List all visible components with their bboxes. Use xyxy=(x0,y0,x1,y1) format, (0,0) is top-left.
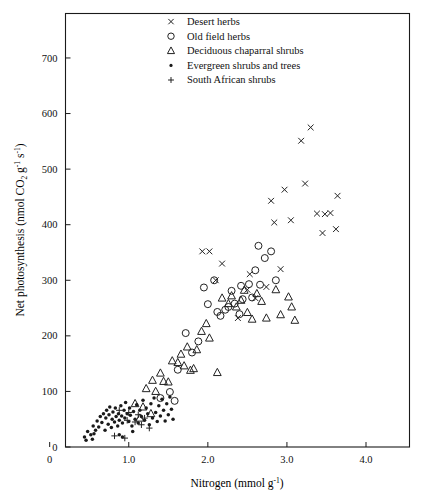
marker-dot xyxy=(104,416,108,420)
marker-cross xyxy=(268,198,274,204)
marker-circle xyxy=(268,248,275,255)
marker-triangle xyxy=(285,293,293,300)
marker-dot xyxy=(97,425,101,429)
marker-dot xyxy=(135,403,139,407)
legend-label: Evergreen shrubs and trees xyxy=(187,60,300,71)
marker-dot xyxy=(119,404,123,408)
marker-dot xyxy=(159,414,163,418)
marker-dot xyxy=(162,409,166,413)
y-tick-label: 200 xyxy=(42,330,58,341)
marker-dot xyxy=(113,420,117,424)
marker-cross xyxy=(335,193,341,199)
marker-circle xyxy=(211,277,218,284)
marker-dot xyxy=(165,402,169,406)
data-points-layer xyxy=(83,125,341,443)
y-tick-label: 600 xyxy=(42,108,58,119)
marker-dot xyxy=(108,405,112,409)
marker-dot xyxy=(123,416,127,420)
marker-triangle xyxy=(177,350,185,357)
marker-dot xyxy=(94,429,98,433)
marker-dot xyxy=(128,406,132,410)
series-old-field-herbs xyxy=(157,242,279,404)
marker-cross xyxy=(278,266,284,272)
marker-dot xyxy=(154,411,158,415)
marker-dot xyxy=(121,421,125,425)
marker-dot xyxy=(169,64,172,67)
marker-dot xyxy=(110,417,114,421)
marker-triangle xyxy=(218,294,226,301)
marker-dot xyxy=(103,429,107,433)
y-tick-label: 500 xyxy=(42,164,58,175)
marker-circle xyxy=(166,388,173,395)
marker-cross xyxy=(282,187,288,193)
marker-dot xyxy=(170,407,174,411)
marker-circle xyxy=(257,281,264,288)
marker-circle xyxy=(261,255,268,262)
marker-cross xyxy=(298,138,304,144)
marker-dot xyxy=(86,430,90,434)
marker-dot xyxy=(118,419,122,423)
marker-cross xyxy=(263,284,269,290)
legend-item: Deciduous chaparral shrubs xyxy=(167,45,303,56)
marker-dot xyxy=(111,410,115,414)
marker-dot xyxy=(144,406,148,410)
marker-dot xyxy=(152,396,156,400)
legend-label: South African shrubs xyxy=(187,74,276,85)
marker-dot xyxy=(120,414,124,418)
marker-dot xyxy=(155,420,159,424)
legend-item: South African shrubs xyxy=(168,74,276,85)
marker-dot xyxy=(84,439,88,443)
marker-dot xyxy=(149,402,153,406)
marker-triangle xyxy=(206,334,214,341)
marker-triangle xyxy=(198,327,206,334)
marker-dot xyxy=(160,397,164,401)
marker-dot xyxy=(130,424,134,428)
marker-triangle xyxy=(152,387,160,394)
legend-item: Desert herbs xyxy=(168,16,239,27)
marker-dot xyxy=(92,432,96,436)
marker-triangle xyxy=(190,364,198,371)
y-tick-label: 700 xyxy=(42,53,58,64)
marker-dot xyxy=(89,433,93,437)
marker-dot xyxy=(110,426,114,430)
marker-circle xyxy=(200,284,207,291)
marker-triangle xyxy=(248,315,256,322)
legend-label: Deciduous chaparral shrubs xyxy=(187,45,304,56)
marker-cross xyxy=(322,211,328,217)
marker-dot xyxy=(114,415,118,419)
marker-dot xyxy=(157,404,161,408)
marker-dot xyxy=(102,412,106,416)
y-tick-label: 0 xyxy=(52,442,57,453)
marker-dot xyxy=(151,416,155,420)
marker-dot xyxy=(114,406,118,410)
marker-cross xyxy=(333,226,339,232)
marker-dot xyxy=(91,424,95,428)
marker-dot xyxy=(95,419,99,423)
series-deciduous-chaparral-shrubs xyxy=(131,286,298,422)
marker-circle xyxy=(204,301,211,308)
marker-triangle xyxy=(263,314,271,321)
marker-circle xyxy=(245,281,252,288)
y-tick-label: 100 xyxy=(42,386,58,397)
series-evergreen-shrubs-and-trees xyxy=(83,395,175,442)
marker-triangle xyxy=(258,297,266,304)
marker-dot xyxy=(132,410,136,414)
x-tick-label: 1.0 xyxy=(122,454,135,465)
marker-triangle xyxy=(244,308,252,315)
marker-dot xyxy=(122,409,126,413)
marker-dot xyxy=(171,417,175,421)
marker-circle xyxy=(272,277,279,284)
scatter-plot-figure: 0100200300400500600700 01.02.03.04.0 Net… xyxy=(0,0,428,497)
marker-circle xyxy=(255,242,262,249)
chart-canvas: 0100200300400500600700 01.02.03.04.0 Net… xyxy=(0,0,428,497)
marker-dot xyxy=(163,419,167,423)
marker-cross xyxy=(308,125,314,131)
marker-cross xyxy=(328,210,334,216)
x-tick-label: 4.0 xyxy=(359,454,372,465)
marker-dot xyxy=(83,435,87,439)
marker-circle xyxy=(168,33,174,39)
marker-dot xyxy=(124,401,128,405)
x-axis-ticks xyxy=(50,442,366,447)
marker-dot xyxy=(118,433,122,437)
legend-item: Evergreen shrubs and trees xyxy=(169,60,300,71)
